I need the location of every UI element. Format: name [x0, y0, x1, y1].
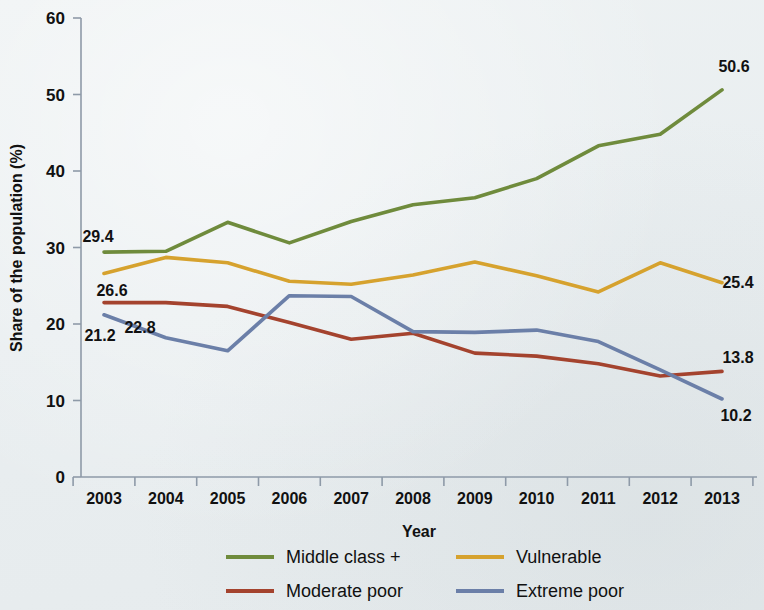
- x-tick-label: 2005: [210, 490, 246, 507]
- legend-label-moderate-poor[interactable]: Moderate poor: [286, 581, 403, 601]
- series-line-middle-class: [104, 90, 722, 252]
- series-line-moderate-poor: [104, 303, 722, 376]
- y-tick-label: 50: [46, 86, 65, 105]
- x-tick-label: 2012: [642, 490, 678, 507]
- x-axis-ticks: [73, 477, 753, 486]
- series-line-extreme-poor: [104, 296, 722, 399]
- x-tick-label: 2006: [272, 490, 308, 507]
- start-value-label: 26.6: [96, 282, 127, 299]
- series-line-vulnerable: [104, 257, 722, 292]
- end-value-label: 50.6: [718, 58, 749, 75]
- chart-canvas: 6050403020100 20032004200520062007200820…: [0, 0, 764, 610]
- x-tick-label: 2008: [395, 490, 431, 507]
- end-value-label: 13.8: [722, 349, 753, 366]
- start-value-label: 22.8: [124, 319, 155, 336]
- legend-label-extreme-poor[interactable]: Extreme poor: [516, 581, 624, 601]
- y-tick-label: 60: [46, 9, 65, 28]
- x-tick-label: 2010: [519, 490, 555, 507]
- x-tick-label: 2011: [581, 490, 616, 507]
- x-tick-label: 2004: [148, 490, 184, 507]
- series-lines-group: [104, 90, 722, 399]
- y-tick-label: 30: [46, 239, 65, 258]
- y-tick-label: 0: [56, 468, 65, 487]
- line-chart: 6050403020100 20032004200520062007200820…: [0, 0, 764, 610]
- y-tick-label: 40: [46, 162, 65, 181]
- y-axis-ticks: [73, 18, 81, 477]
- y-tick-label: 20: [46, 315, 65, 334]
- x-axis-title: Year: [402, 523, 436, 540]
- legend-label-middle-class[interactable]: Middle class +: [286, 547, 401, 567]
- start-value-label: 29.4: [82, 228, 113, 245]
- chart-legend: Middle class +VulnerableModerate poorExt…: [226, 547, 624, 601]
- x-tick-label: 2009: [457, 490, 493, 507]
- x-axis-tick-labels: 2003200420052006200720082009201020112012…: [86, 490, 740, 507]
- data-point-labels: 29.450.626.625.422.813.821.210.2: [82, 58, 753, 424]
- x-tick-label: 2013: [704, 490, 740, 507]
- x-tick-label: 2007: [333, 490, 369, 507]
- legend-label-vulnerable[interactable]: Vulnerable: [516, 547, 601, 567]
- x-tick-label: 2003: [86, 490, 122, 507]
- end-value-label: 25.4: [722, 274, 753, 291]
- y-axis-title: Share of the population (%): [8, 144, 25, 352]
- y-axis-tick-labels: 6050403020100: [46, 9, 65, 487]
- start-value-label: 21.2: [84, 327, 115, 344]
- end-value-label: 10.2: [720, 407, 751, 424]
- y-tick-label: 10: [46, 392, 65, 411]
